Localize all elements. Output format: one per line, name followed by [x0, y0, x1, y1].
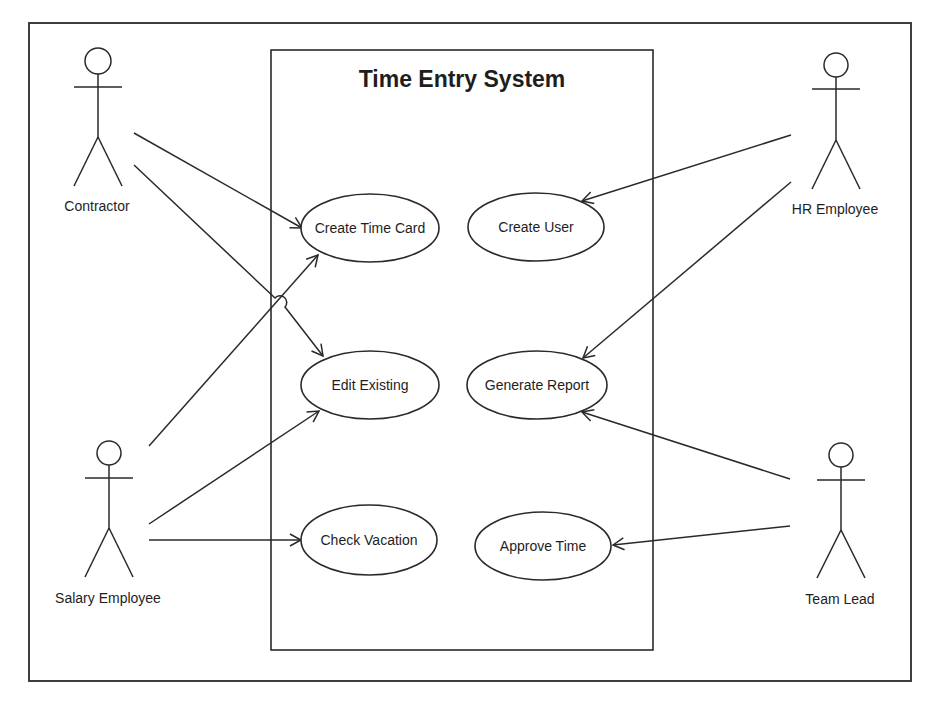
use-case-label: Generate Report	[485, 377, 589, 393]
actor-label: Salary Employee	[55, 590, 161, 606]
use-case-diagram: Time Entry System Create Time Card Creat…	[0, 0, 935, 708]
use-case-label: Create Time Card	[315, 220, 425, 236]
use-case-create-user[interactable]: Create User	[468, 193, 604, 261]
use-case-label: Approve Time	[500, 538, 587, 554]
actor-label: HR Employee	[792, 201, 879, 217]
actor-label: Contractor	[64, 198, 130, 214]
use-case-label: Create User	[498, 219, 574, 235]
use-case-approve-time[interactable]: Approve Time	[475, 512, 611, 580]
system-title: Time Entry System	[359, 66, 566, 92]
use-case-label: Edit Existing	[331, 377, 408, 393]
actor-label: Team Lead	[805, 591, 874, 607]
use-case-check-vacation[interactable]: Check Vacation	[301, 505, 437, 575]
use-case-label: Check Vacation	[320, 532, 417, 548]
use-case-generate-report[interactable]: Generate Report	[467, 351, 607, 419]
use-case-create-time-card[interactable]: Create Time Card	[301, 194, 439, 262]
use-case-edit-existing[interactable]: Edit Existing	[301, 351, 439, 419]
